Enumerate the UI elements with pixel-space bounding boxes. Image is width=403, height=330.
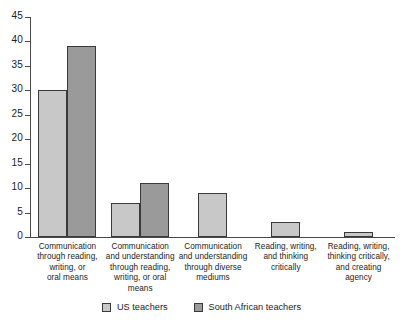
bar bbox=[140, 183, 169, 237]
y-axis-tick-mark bbox=[25, 90, 30, 91]
bar-group bbox=[104, 17, 177, 237]
y-axis-tick-label: 40 bbox=[11, 34, 23, 46]
plot-area: 051015202530354045 bbox=[30, 14, 395, 240]
x-axis-category-label-line: Reading, writing, bbox=[314, 242, 403, 252]
x-axis-category-label-line: means bbox=[96, 284, 185, 294]
bar bbox=[198, 193, 227, 237]
y-axis-tick-mark bbox=[25, 237, 30, 238]
bar-group bbox=[31, 17, 104, 237]
y-axis-tick-mark bbox=[25, 139, 30, 140]
chart-legend: US teachersSouth African teachers bbox=[0, 302, 403, 312]
bar bbox=[344, 232, 373, 237]
y-axis-tick-mark bbox=[25, 17, 30, 18]
y-axis-tick-mark bbox=[25, 164, 30, 165]
y-axis-tick-mark bbox=[25, 66, 30, 67]
legend-label: South African teachers bbox=[209, 302, 301, 312]
x-axis-category-labels: Communicationthrough reading,writing, or… bbox=[31, 242, 395, 294]
y-axis-tick-mark bbox=[25, 213, 30, 214]
legend-item[interactable]: South African teachers bbox=[194, 302, 301, 312]
legend-swatch bbox=[194, 303, 203, 312]
y-axis-tick-mark bbox=[25, 188, 30, 189]
x-axis-spine bbox=[30, 237, 395, 238]
bar-chart-figure: 051015202530354045 Communicationthrough … bbox=[0, 0, 403, 330]
y-axis-tick-label: 10 bbox=[11, 181, 23, 193]
x-axis-category-label-line: and creating bbox=[314, 263, 403, 273]
bars-layer bbox=[31, 17, 395, 237]
bar bbox=[271, 222, 300, 237]
y-axis-tick-label: 45 bbox=[11, 10, 23, 22]
x-axis-category-label: Reading, writing,thinking critically,and… bbox=[314, 242, 403, 284]
y-axis-tick-label: 15 bbox=[11, 157, 23, 169]
y-axis-tick-label: 0 bbox=[17, 230, 23, 242]
x-axis-category-label-line: thinking critically, bbox=[314, 252, 403, 262]
bar-group bbox=[177, 17, 250, 237]
y-axis-tick-label: 5 bbox=[17, 206, 23, 218]
legend-swatch bbox=[102, 303, 111, 312]
x-axis-category-label-line: agency bbox=[314, 273, 403, 283]
y-axis-tick-label: 35 bbox=[11, 59, 23, 71]
bar-group bbox=[249, 17, 322, 237]
bar-group bbox=[322, 17, 395, 237]
bar bbox=[38, 90, 67, 237]
x-axis-category-label-line: mediums bbox=[169, 273, 258, 283]
y-axis-tick-label: 30 bbox=[11, 83, 23, 95]
bar bbox=[111, 203, 140, 237]
bar bbox=[67, 46, 96, 237]
legend-item[interactable]: US teachers bbox=[102, 302, 168, 312]
legend-label: US teachers bbox=[117, 302, 168, 312]
y-axis-tick-mark bbox=[25, 41, 30, 42]
y-axis-tick-label: 20 bbox=[11, 132, 23, 144]
y-axis-tick-mark bbox=[25, 115, 30, 116]
y-axis-tick-label: 25 bbox=[11, 108, 23, 120]
